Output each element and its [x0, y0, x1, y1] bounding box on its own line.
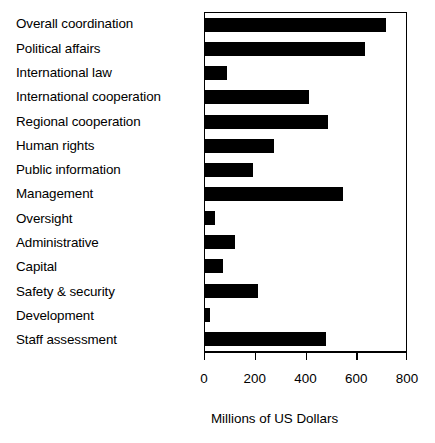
x-axis-tick-labels: 0200400600800	[0, 372, 435, 390]
bar-chart: Overall coordinationPolitical affairsInt…	[0, 0, 435, 443]
bar	[205, 66, 227, 80]
category-label: Human rights	[16, 133, 202, 157]
bar	[205, 308, 210, 322]
x-axis-tick	[204, 352, 205, 360]
bar-row	[205, 13, 406, 37]
bar-row	[205, 134, 406, 158]
category-label: Political affairs	[16, 36, 202, 60]
x-axis-tick	[306, 352, 307, 360]
x-axis-tick-label: 600	[345, 372, 367, 385]
bar	[205, 259, 223, 273]
x-axis-title: Millions of US Dollars	[0, 412, 435, 425]
category-label: Development	[16, 303, 202, 327]
bar	[205, 90, 309, 104]
category-label: Oversight	[16, 206, 202, 230]
category-axis-labels: Overall coordinationPolitical affairsInt…	[16, 12, 202, 352]
bar	[205, 235, 235, 249]
bar-row	[205, 61, 406, 85]
bar-row	[205, 303, 406, 327]
x-axis-tick-label: 400	[294, 372, 316, 385]
bar	[205, 332, 326, 346]
bar-row	[205, 254, 406, 278]
category-label: International law	[16, 61, 202, 85]
x-axis-tick-label: 200	[244, 372, 266, 385]
category-label: Public information	[16, 158, 202, 182]
category-label: Regional cooperation	[16, 109, 202, 133]
category-label: Administrative	[16, 231, 202, 255]
bar-row	[205, 182, 406, 206]
bar	[205, 163, 253, 177]
category-label: Staff assessment	[16, 328, 202, 352]
bar-row	[205, 230, 406, 254]
bar-row	[205, 37, 406, 61]
category-label: International cooperation	[16, 85, 202, 109]
bar	[205, 187, 343, 201]
x-axis-tick-label: 800	[396, 372, 418, 385]
bar	[205, 42, 365, 56]
category-label: Safety & security	[16, 279, 202, 303]
bar-row	[205, 327, 406, 351]
bar	[205, 211, 215, 225]
x-axis-tick	[356, 352, 357, 360]
bar	[205, 139, 274, 153]
bar	[205, 284, 258, 298]
x-axis-tick	[255, 352, 256, 360]
category-label: Overall coordination	[16, 12, 202, 36]
bar-series	[205, 13, 406, 351]
bar-row	[205, 85, 406, 109]
bar	[205, 115, 328, 129]
x-axis-tick-label: 0	[200, 372, 207, 385]
plot-area	[204, 12, 407, 352]
x-axis-line	[204, 352, 407, 353]
bar-row	[205, 110, 406, 134]
bar-row	[205, 279, 406, 303]
x-axis-title-text: Millions of US Dollars	[211, 411, 338, 426]
category-label: Management	[16, 182, 202, 206]
bar-row	[205, 158, 406, 182]
bar	[205, 18, 386, 32]
category-label: Capital	[16, 255, 202, 279]
bar-row	[205, 206, 406, 230]
x-axis-tick	[406, 352, 407, 360]
